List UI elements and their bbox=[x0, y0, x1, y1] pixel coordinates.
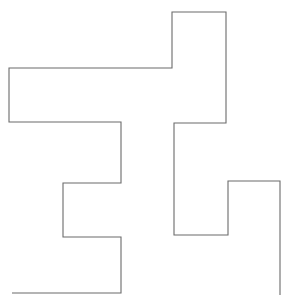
drawing-canvas bbox=[0, 0, 294, 304]
polyline-figure bbox=[0, 0, 294, 304]
canvas-background bbox=[0, 0, 294, 304]
